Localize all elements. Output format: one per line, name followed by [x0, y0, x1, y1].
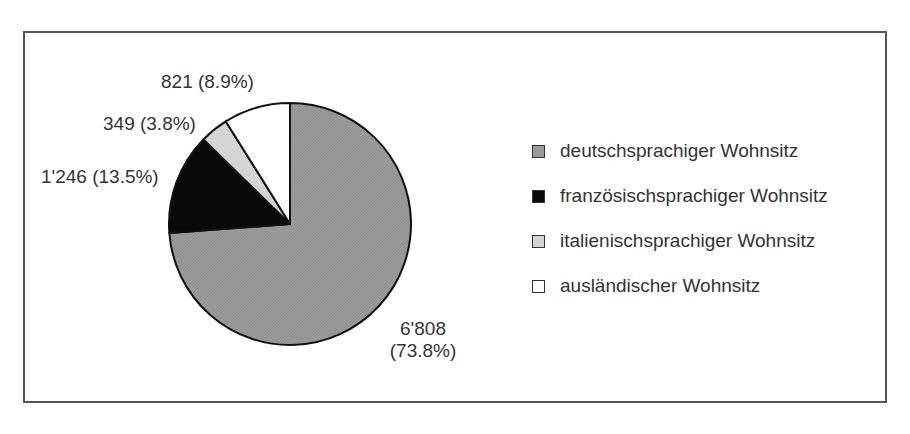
- legend: deutschsprachiger Wohnsitz französischsp…: [532, 140, 828, 320]
- label-franzoesisch: 1'246 (13.5%): [41, 166, 159, 188]
- legend-label: deutschsprachiger Wohnsitz: [560, 140, 798, 162]
- legend-item-franzoesisch: französischsprachiger Wohnsitz: [532, 185, 828, 207]
- legend-label: italienischsprachiger Wohnsitz: [560, 230, 815, 252]
- legend-swatch-italienisch: [532, 235, 545, 248]
- legend-item-italienisch: italienischsprachiger Wohnsitz: [532, 230, 828, 252]
- legend-swatch-franzoesisch: [532, 190, 545, 203]
- legend-item-deutsch: deutschsprachiger Wohnsitz: [532, 140, 828, 162]
- legend-swatch-deutsch: [532, 145, 545, 158]
- label-deutsch-value: 6'808: [383, 318, 463, 340]
- legend-item-auslaendisch: ausländischer Wohnsitz: [532, 275, 828, 297]
- label-italienisch: 349 (3.8%): [103, 113, 196, 135]
- label-auslaendisch: 821 (8.9%): [161, 71, 254, 93]
- legend-label: französischsprachiger Wohnsitz: [560, 185, 828, 207]
- label-deutsch: 6'808 (73.8%): [383, 318, 463, 362]
- legend-swatch-auslaendisch: [532, 280, 545, 293]
- label-deutsch-percent: (73.8%): [383, 340, 463, 362]
- legend-label: ausländischer Wohnsitz: [560, 275, 760, 297]
